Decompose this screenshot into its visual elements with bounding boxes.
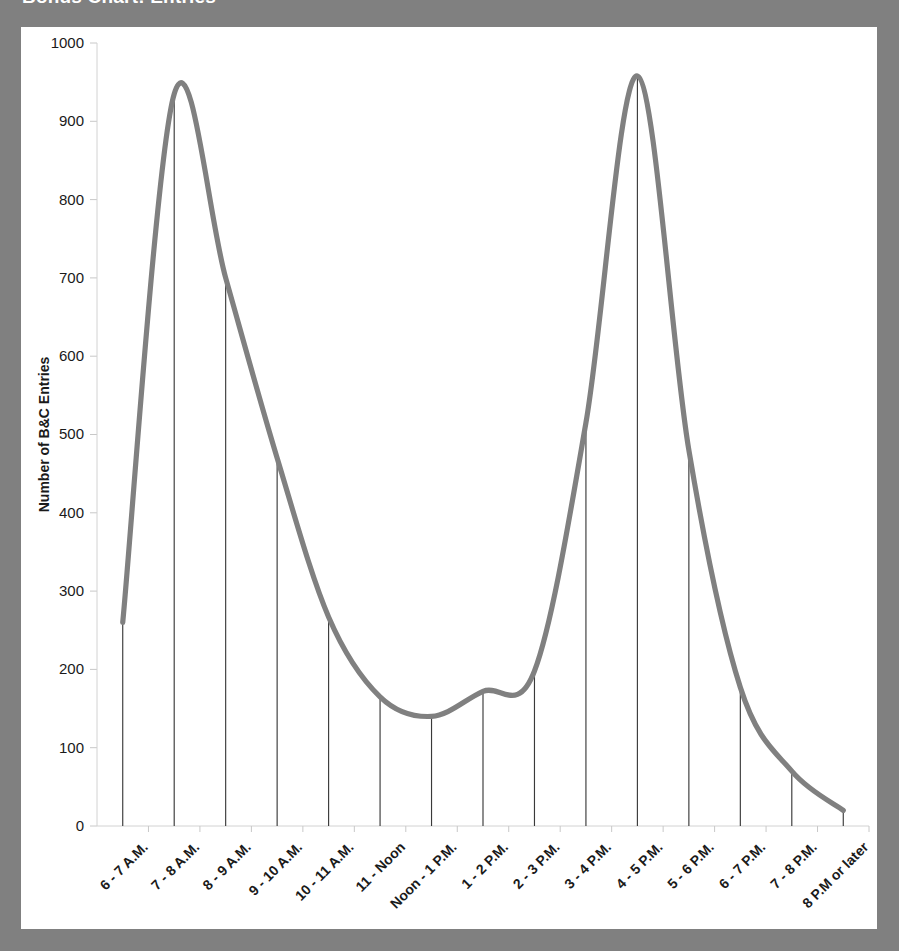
x-tick-label: 4 - 5 P.M.: [613, 839, 666, 892]
y-axis-title: Number of B&C Entries: [36, 357, 52, 513]
screenshot-root: Bonus Chart: Entries 0100200300400500600…: [0, 0, 899, 951]
x-tick-label: 6 - 7 A.M.: [96, 839, 150, 893]
y-tick-label: 900: [59, 112, 84, 129]
chart-title-strip: Bonus Chart: Entries: [0, 0, 899, 8]
y-tick-label: 600: [59, 347, 84, 364]
y-tick-label: 700: [59, 269, 84, 286]
y-tick-label: 300: [59, 582, 84, 599]
y-tick-label: 500: [59, 425, 84, 442]
x-tick-label: 7 - 8 A.M.: [148, 839, 202, 893]
x-tick-label: 8 - 9 A.M.: [199, 839, 253, 893]
y-tick-label: 200: [59, 660, 84, 677]
y-tick-label: 1000: [51, 34, 84, 51]
x-tick-label: 3 - 4 P.M.: [561, 839, 614, 892]
x-tick-label: 7 - 8 P.M.: [767, 839, 820, 892]
chart-card: 01002003004005006007008009001000 6 - 7 A…: [21, 27, 877, 929]
line-chart: 01002003004005006007008009001000 6 - 7 A…: [21, 27, 877, 929]
x-tick-label: 2 - 3 P.M.: [510, 839, 563, 892]
y-axis-group: 01002003004005006007008009001000: [51, 34, 97, 834]
y-tick-label: 0: [76, 817, 84, 834]
x-axis-group: 6 - 7 A.M.7 - 8 A.M.8 - 9 A.M.9 - 10 A.M…: [96, 826, 871, 912]
y-tick-label: 800: [59, 191, 84, 208]
y-axis-title-group: Number of B&C Entries: [36, 357, 52, 513]
x-tick-label: 5 - 6 P.M.: [664, 839, 717, 892]
y-tick-label: 100: [59, 739, 84, 756]
x-tick-label: 6 - 7 P.M.: [715, 839, 768, 892]
y-tick-label: 400: [59, 504, 84, 521]
droplines-group: [123, 76, 844, 826]
x-tick-label: 1 - 2 P.M.: [458, 839, 511, 892]
page-title: Bonus Chart: Entries: [22, 0, 216, 8]
